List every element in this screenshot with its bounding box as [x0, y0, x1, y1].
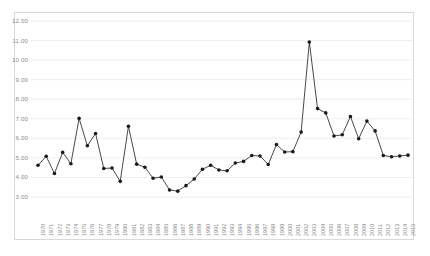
- x-axis-tick-label: 1980: [122, 224, 128, 236]
- y-axis-tick-label: 5.00: [2, 154, 28, 161]
- data-point-marker: [316, 107, 320, 111]
- x-axis-tick-label: 1984: [155, 224, 161, 236]
- data-point-marker: [250, 154, 254, 158]
- data-point-marker: [53, 172, 57, 176]
- data-point-marker: [94, 132, 98, 136]
- data-point-marker: [217, 168, 221, 172]
- y-axis-tick-label: 7.00: [2, 115, 28, 122]
- data-point-marker: [36, 164, 40, 168]
- data-point-marker: [151, 176, 155, 180]
- data-point-marker: [291, 150, 295, 154]
- data-point-marker: [283, 150, 287, 154]
- data-point-marker: [77, 117, 81, 121]
- data-point-marker: [275, 143, 279, 147]
- data-point-marker: [225, 169, 229, 173]
- data-point-marker: [168, 188, 172, 192]
- x-axis-tick-label: 2007: [344, 224, 350, 236]
- x-axis-tick-label: 1977: [98, 224, 104, 236]
- x-axis-tick-label: 2010: [369, 224, 375, 236]
- data-point-marker: [135, 162, 139, 166]
- x-axis-tick-label: 1992: [221, 224, 227, 236]
- x-axis-tick-label: 2011: [377, 224, 383, 236]
- series-line: [38, 42, 408, 191]
- data-point-marker: [332, 134, 336, 138]
- x-axis-tick-label: 1990: [205, 224, 211, 236]
- x-axis-tick-label: 1998: [270, 224, 276, 236]
- x-axis-tick-label: 1991: [213, 224, 219, 236]
- data-point-marker: [349, 115, 353, 119]
- data-point-marker: [209, 164, 213, 168]
- data-point-marker: [373, 129, 377, 133]
- x-axis-tick-label: 1987: [180, 224, 186, 236]
- x-axis-tick-label: 2012: [385, 224, 391, 236]
- x-axis-tick-label: 2015: [410, 224, 416, 236]
- x-axis-tick-label: 2003: [311, 224, 317, 236]
- x-axis-tick-label: 1974: [73, 224, 79, 236]
- x-axis-tick-label: 1979: [114, 224, 120, 236]
- data-point-marker: [118, 180, 122, 184]
- data-point-marker: [86, 144, 90, 148]
- data-point-marker: [201, 167, 205, 171]
- y-axis-tick-label: 10.00: [2, 56, 28, 63]
- data-point-marker: [324, 111, 328, 115]
- y-axis-tick-label: 8.00: [2, 95, 28, 102]
- x-axis-tick-label: 2004: [320, 224, 326, 236]
- data-point-marker: [69, 162, 73, 166]
- x-axis-tick-label: 1999: [279, 224, 285, 236]
- data-point-marker: [258, 154, 262, 158]
- x-axis-tick-label: 2001: [295, 224, 301, 236]
- x-axis-tick-label: 1988: [188, 224, 194, 236]
- data-point-marker: [357, 137, 361, 141]
- x-axis-tick-label: 2005: [328, 224, 334, 236]
- data-point-marker: [184, 184, 188, 188]
- x-axis-tick-label: 1989: [196, 224, 202, 236]
- y-axis-tick-label: 9.00: [2, 76, 28, 83]
- y-axis-tick-label: 6.00: [2, 134, 28, 141]
- data-point-marker: [102, 167, 106, 171]
- data-point-marker: [127, 124, 131, 128]
- x-axis-tick-label: 2002: [303, 224, 309, 236]
- data-point-marker: [365, 119, 369, 123]
- x-axis-tick-label: 1976: [89, 224, 95, 236]
- data-point-marker: [390, 155, 394, 159]
- x-axis-tick-label: 2014: [402, 224, 408, 236]
- data-point-marker: [176, 189, 180, 193]
- data-point-marker: [160, 175, 164, 179]
- data-point-marker: [340, 133, 344, 137]
- x-axis-tick-label: 1985: [163, 224, 169, 236]
- x-axis-tick-label: 2000: [287, 224, 293, 236]
- data-point-marker: [406, 153, 410, 157]
- data-point-marker: [234, 161, 238, 165]
- data-point-marker: [308, 40, 312, 44]
- x-axis-tick-label: 1997: [262, 224, 268, 236]
- x-axis-tick-label: 1982: [139, 224, 145, 236]
- x-axis-tick-label: 1978: [106, 224, 112, 236]
- data-point-marker: [44, 155, 48, 159]
- data-point-marker: [61, 151, 65, 155]
- x-axis-tick-label: 2013: [394, 224, 400, 236]
- y-axis-tick-label: 11.00: [2, 37, 28, 44]
- y-axis-tick-label: 3.00: [2, 193, 28, 200]
- x-axis-tick-label: 2006: [336, 224, 342, 236]
- x-axis-tick-label: 1970: [40, 224, 46, 236]
- x-axis-tick-label: 1996: [254, 224, 260, 236]
- data-point-marker: [382, 154, 386, 158]
- x-axis-tick-label: 1983: [147, 224, 153, 236]
- line-chart-plot: [0, 0, 430, 256]
- data-point-marker: [110, 166, 114, 170]
- x-axis-tick-label: 1995: [246, 224, 252, 236]
- x-axis-tick-label: 1986: [172, 224, 178, 236]
- x-axis-tick-label: 1973: [65, 224, 71, 236]
- x-axis-tick-label: 2009: [361, 224, 367, 236]
- x-axis-tick-label: 1993: [229, 224, 235, 236]
- x-axis-tick-label: 1972: [57, 224, 63, 236]
- x-axis-tick-label: 1994: [237, 224, 243, 236]
- y-axis-tick-label: 4.00: [2, 173, 28, 180]
- x-axis-tick-label: 2008: [353, 224, 359, 236]
- data-point-marker: [143, 165, 147, 169]
- data-point-marker: [192, 177, 196, 181]
- data-point-marker: [266, 163, 270, 167]
- x-axis-tick-label: 1971: [48, 224, 54, 236]
- y-axis-tick-label: 12.00: [2, 17, 28, 24]
- x-axis-tick-label: 1975: [81, 224, 87, 236]
